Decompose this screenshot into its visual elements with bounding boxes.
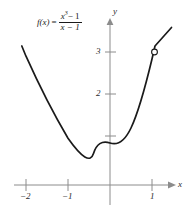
formula-numerator: x3− 1 <box>59 12 82 22</box>
y-tick-label-3: 3 <box>96 46 101 56</box>
graph-figure: −2 −1 1 2 3 x y f(x) = x3− 1 x − 1 <box>0 0 189 214</box>
formula-numerator-tail: − 1 <box>68 11 80 21</box>
x-tick-label-neg1: −1 <box>62 191 73 201</box>
y-axis-label: y <box>113 6 117 16</box>
x-axis-arrow-icon <box>168 182 176 189</box>
x-axis-label: x <box>178 179 182 189</box>
formula-equals: = <box>52 17 57 27</box>
removable-discontinuity-open-circle <box>152 49 158 55</box>
formula-function-name: f(x) <box>37 17 50 27</box>
x-tick-label-neg2: −2 <box>20 191 31 201</box>
y-tick-label-2: 2 <box>96 88 101 98</box>
formula-denominator: x − 1 <box>59 23 82 33</box>
function-formula-label: f(x) = x3− 1 x − 1 <box>37 12 82 32</box>
plot-canvas <box>0 0 189 214</box>
formula-fraction: x3− 1 x − 1 <box>59 12 82 32</box>
y-axis-arrow-icon <box>107 18 114 25</box>
x-tick-label-pos1: 1 <box>150 191 155 201</box>
